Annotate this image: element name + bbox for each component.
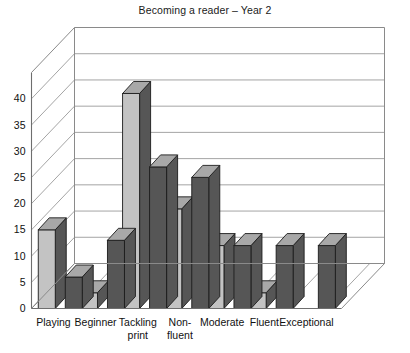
y-axis-tick-label: 20 <box>14 197 26 209</box>
chart-container: Becoming a reader – Year 2 0510152025303… <box>0 0 410 353</box>
y-axis-tick-label: 10 <box>14 250 26 262</box>
x-axis-tick-label: Fluent <box>250 316 279 328</box>
x-axis-tick-label: Tackling <box>119 316 157 328</box>
y-axis-tick-label: 25 <box>14 171 26 183</box>
bar-series-2 <box>192 165 220 308</box>
bar-series-2 <box>276 234 304 309</box>
x-axis-tick-label: Beginner <box>75 316 118 328</box>
bar-series-1 <box>38 218 66 309</box>
x-axis-tick-label: fluent <box>167 329 193 341</box>
y-axis-tick-label: 35 <box>14 119 26 131</box>
x-axis-tick-label: Playing <box>36 316 71 328</box>
bar-series-2 <box>107 228 135 308</box>
bar-chart-3d-plot: 0510152025303540 PlayingBeginnerTackling… <box>0 0 410 353</box>
y-axis-tick-labels: 0510152025303540 <box>14 92 26 314</box>
y-axis-tick-label: 40 <box>14 92 26 104</box>
y-axis-tick-label: 30 <box>14 145 26 157</box>
bar-series-2 <box>150 155 178 309</box>
y-axis-tick-label: 15 <box>14 223 26 235</box>
x-axis-tick-label: print <box>128 329 149 341</box>
x-axis-tick-labels: PlayingBeginnerTacklingprintNon-fluentMo… <box>36 316 333 341</box>
x-axis-tick-label: Non- <box>169 316 192 328</box>
y-axis-tick-label: 0 <box>20 302 26 314</box>
x-axis-tick-label: Moderate <box>200 316 245 328</box>
x-axis-tick-label: Exceptional <box>279 316 333 328</box>
bar-series-2 <box>318 234 346 309</box>
bar-series-2 <box>234 234 262 309</box>
y-axis-tick-label: 5 <box>20 276 26 288</box>
